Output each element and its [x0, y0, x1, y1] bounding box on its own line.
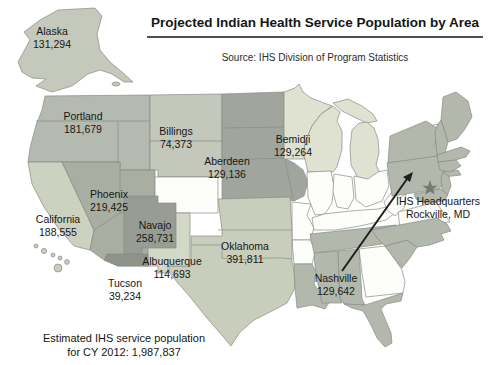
area-name: Portland [63, 110, 102, 123]
area-name: Oklahoma [221, 240, 269, 253]
page-title: Projected Indian Health Service Populati… [147, 14, 483, 38]
area-population: 131,294 [33, 38, 71, 51]
area-population: 188,555 [36, 226, 80, 239]
area-population: 129,264 [274, 146, 312, 159]
footnote-line2: for CY 2012: 1,987,837 [43, 345, 205, 359]
area-name: Billings [159, 125, 192, 138]
area-population: 258,731 [136, 232, 174, 245]
area-name: Alaska [33, 25, 71, 38]
area-name: Nashville [315, 272, 358, 285]
area-label-phoenix: Phoenix 219,425 [90, 188, 128, 214]
area-name: Navajo [136, 219, 174, 232]
area-label-oklahoma: Oklahoma 391,811 [221, 240, 269, 266]
region-hawaii [34, 244, 69, 272]
area-population: 39,234 [108, 290, 142, 303]
area-label-bemidji: Bemidji 129,264 [274, 133, 312, 159]
total-population-footnote: Estimated IHS service population for CY … [43, 331, 205, 359]
area-label-california: California 188,555 [36, 213, 80, 239]
hq-label-line1: IHS Headquarters [396, 195, 480, 208]
hq-label-line2: Rockville, MD [396, 208, 480, 221]
state-illinois [307, 171, 334, 215]
footnote-line1: Estimated IHS service population [43, 331, 205, 345]
area-label-portland: Portland 181,679 [63, 110, 102, 136]
region-bemidji-mi-upper [333, 99, 377, 123]
area-label-albuquerque: Albuquerque 114,693 [142, 255, 202, 281]
area-label-tucson: Tucson 39,234 [108, 277, 142, 303]
area-population: 129,136 [204, 168, 250, 181]
ihs-population-map-figure: Projected Indian Health Service Populati… [0, 0, 491, 365]
hq-label: IHS Headquarters Rockville, MD [396, 195, 480, 221]
area-label-navajo: Navajo 258,731 [136, 219, 174, 245]
state-indiana [333, 174, 354, 209]
area-population: 74,373 [159, 138, 192, 151]
region-bemidji-mi-lower [350, 122, 381, 180]
area-name: Bemidji [274, 133, 312, 146]
area-population: 219,425 [90, 201, 128, 214]
area-population: 391,811 [221, 253, 269, 266]
alaska-island [112, 82, 120, 86]
area-name: Tucson [108, 277, 142, 290]
area-population: 114,693 [142, 268, 202, 281]
area-label-nashville: Nashville 129,642 [315, 272, 358, 298]
area-name: Aberdeen [204, 155, 250, 168]
area-name: Albuquerque [142, 255, 202, 268]
area-label-billings: Billings 74,373 [159, 125, 192, 151]
area-name: Phoenix [90, 188, 128, 201]
area-label-aberdeen: Aberdeen 129,136 [204, 155, 250, 181]
area-population: 129,642 [315, 285, 358, 298]
area-population: 181,679 [63, 123, 102, 136]
source-note: Source: IHS Division of Program Statisti… [147, 52, 483, 63]
area-name: California [36, 213, 80, 226]
area-label-alaska: Alaska 131,294 [33, 25, 71, 51]
